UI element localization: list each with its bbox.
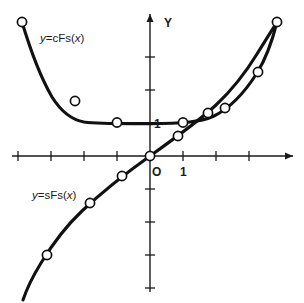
data-point	[42, 250, 51, 259]
sinh-curve-label: y=sFs(x)	[31, 189, 77, 201]
data-point	[203, 108, 212, 117]
x-axis-arrowhead	[285, 153, 293, 160]
origin-label: O	[152, 165, 161, 179]
data-point	[253, 67, 262, 76]
y-unit-label: 1	[154, 117, 161, 131]
plot-canvas: Y O 1 1 y=cFs(x) y=sFs(x)	[0, 0, 304, 303]
data-point	[173, 131, 182, 140]
data-point	[70, 96, 79, 105]
data-point	[220, 103, 229, 112]
data-point	[17, 17, 26, 26]
sinh-data-points	[42, 108, 212, 259]
data-point	[117, 171, 126, 180]
x-unit-label: 1	[180, 165, 187, 179]
cosh-curve-label: y=cFs(x)	[39, 32, 85, 44]
hyperbolic-functions-chart: Y O 1 1 y=cFs(x) y=sFs(x)	[0, 0, 304, 303]
data-point	[112, 118, 121, 127]
y-axis-name-label: Y	[164, 16, 172, 30]
data-point	[85, 198, 94, 207]
y-axis-arrowhead	[147, 14, 154, 22]
data-point	[178, 118, 187, 127]
data-point	[272, 17, 281, 26]
data-point	[145, 151, 154, 160]
